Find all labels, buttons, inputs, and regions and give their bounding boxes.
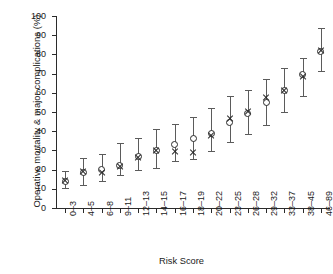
- data-point-predicted: [98, 169, 106, 177]
- data-point-predicted: [207, 132, 215, 140]
- y-axis-tick-label: 80: [20, 50, 46, 59]
- error-bar-cap-lower: [190, 159, 197, 160]
- y-axis-tick: [52, 35, 56, 36]
- x-axis-tick: [138, 209, 139, 213]
- x-axis-tick-label: 33–37: [288, 191, 297, 216]
- y-axis-tick: [52, 93, 56, 94]
- error-bar-cap-upper: [62, 171, 69, 172]
- x-axis-tick-label: 23–25: [234, 191, 243, 216]
- x-axis-tick-label: 46–89: [325, 191, 333, 216]
- error-bar-cap-upper: [245, 90, 252, 91]
- error-bar-cap-lower: [263, 125, 270, 126]
- x-axis-title: Risk Score: [0, 256, 333, 266]
- data-point-observed: [171, 141, 178, 148]
- x-axis-tick-label: 20–22: [215, 191, 224, 216]
- data-point-predicted: [262, 93, 270, 101]
- error-bar-cap-lower: [99, 181, 106, 182]
- x-axis-tick-label: 29–32: [270, 191, 279, 216]
- y-axis-tick-label: 50: [20, 108, 46, 117]
- x-axis-tick: [156, 209, 157, 213]
- data-point-predicted: [116, 163, 124, 171]
- x-axis-tick: [102, 209, 103, 213]
- plot-area: 01020304050607080901000–34–56–89–1112–13…: [0, 0, 333, 274]
- error-bar-cap-lower: [227, 142, 234, 143]
- x-axis-tick: [321, 209, 322, 213]
- x-axis-tick-label: 4–5: [87, 201, 96, 216]
- error-bar-cap-upper: [318, 28, 325, 29]
- error-bar-cap-upper: [190, 117, 197, 118]
- x-axis-tick-label: 12–13: [142, 191, 151, 216]
- y-axis-tick: [52, 170, 56, 171]
- y-axis-tick: [52, 189, 56, 190]
- y-axis-tick: [52, 150, 56, 151]
- x-axis-tick: [230, 209, 231, 213]
- error-bar-cap-upper: [281, 68, 288, 69]
- y-axis-tick-label: 40: [20, 127, 46, 136]
- x-axis-tick: [193, 209, 194, 213]
- x-axis-tick-label: 0–3: [69, 201, 78, 216]
- error-bar-cap-lower: [135, 170, 142, 171]
- y-axis-tick-label: 20: [20, 165, 46, 174]
- error-bar-cap-upper: [227, 96, 234, 97]
- x-axis-tick: [120, 209, 121, 213]
- data-point-predicted: [280, 86, 288, 94]
- error-bar-cap-upper: [208, 108, 215, 109]
- y-axis-tick-label: 10: [20, 184, 46, 193]
- y-axis-tick: [52, 74, 56, 75]
- y-axis-tick-label: 0: [20, 204, 46, 213]
- error-bar-cap-lower: [281, 112, 288, 113]
- error-bar-cap-upper: [135, 138, 142, 139]
- x-axis-tick: [248, 209, 249, 213]
- x-axis-tick-label: 26–28: [252, 191, 261, 216]
- y-axis-tick-label: 30: [20, 146, 46, 155]
- error-bar-cap-upper: [300, 58, 307, 59]
- error-bar-cap-upper: [153, 129, 160, 130]
- data-point-predicted: [152, 147, 160, 155]
- data-point-predicted: [299, 73, 307, 81]
- x-axis-tick: [211, 209, 212, 213]
- data-point-predicted: [61, 177, 69, 185]
- error-bar-cap-upper: [172, 124, 179, 125]
- x-axis-tick-label: 9–11: [124, 197, 133, 216]
- error-bar-cap-upper: [263, 79, 270, 80]
- x-axis-tick-label: 6–8: [106, 201, 115, 216]
- y-axis-tick: [52, 208, 56, 209]
- error-bar-cap-lower: [62, 188, 69, 189]
- error-bar-cap-upper: [80, 158, 87, 159]
- error-bar-cap-lower: [318, 71, 325, 72]
- x-axis-tick: [175, 209, 176, 213]
- x-axis-tick-label: 18–19: [197, 191, 206, 216]
- y-axis-tick: [52, 112, 56, 113]
- error-bar-cap-lower: [245, 134, 252, 135]
- data-point-predicted: [317, 46, 325, 54]
- error-bar-cap-lower: [117, 175, 124, 176]
- x-axis-tick: [65, 209, 66, 213]
- error-bar-cap-lower: [300, 96, 307, 97]
- x-axis-tick-label: 16–17: [179, 191, 188, 216]
- x-axis-tick: [303, 209, 304, 213]
- data-point-predicted: [134, 154, 142, 162]
- chart-figure: Operative mortality & major complication…: [0, 0, 333, 274]
- x-axis-tick-label: 38–45: [307, 191, 316, 216]
- y-axis-tick-label: 60: [20, 88, 46, 97]
- data-point-predicted: [244, 107, 252, 115]
- error-bar-cap-upper: [117, 143, 124, 144]
- x-axis-tick-label: 14–15: [160, 191, 169, 216]
- data-point-predicted: [189, 149, 197, 157]
- x-axis-tick: [284, 209, 285, 213]
- y-axis-tick-label: 70: [20, 69, 46, 78]
- data-point-predicted: [79, 168, 87, 176]
- error-bar-cap-lower: [172, 161, 179, 162]
- x-axis-tick: [83, 209, 84, 213]
- y-axis-tick: [52, 131, 56, 132]
- y-axis-tick-label: 100: [20, 12, 46, 21]
- data-point-predicted: [226, 115, 234, 123]
- error-bar-cap-lower: [153, 168, 160, 169]
- data-point-predicted: [171, 148, 179, 156]
- y-axis-line: [56, 16, 57, 208]
- y-axis-tick-label: 90: [20, 31, 46, 40]
- error-bar-cap-lower: [80, 185, 87, 186]
- error-bar-cap-upper: [99, 154, 106, 155]
- y-axis-tick: [52, 54, 56, 55]
- y-axis-tick: [52, 16, 56, 17]
